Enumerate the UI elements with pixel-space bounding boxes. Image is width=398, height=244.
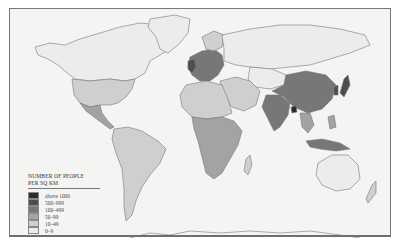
- legend-title-line2: PER SQ KM: [28, 180, 100, 187]
- legend-item: 100–499: [28, 206, 100, 213]
- legend-swatch: [28, 213, 39, 220]
- legend-label: above 1000: [45, 193, 70, 199]
- region-japan: [340, 75, 350, 97]
- region-sub-saharan-africa: [192, 117, 242, 179]
- legend-title-line1: NUMBER OF PEOPLE: [28, 173, 100, 180]
- region-korea: [334, 85, 338, 95]
- legend-swatch: [28, 192, 39, 199]
- legend-item: 500–999: [28, 199, 100, 206]
- region-southeast-asia: [300, 113, 314, 133]
- legend-swatch: [28, 227, 39, 234]
- region-russia: [222, 25, 370, 69]
- legend-swatch: [28, 199, 39, 206]
- region-india: [262, 95, 290, 131]
- legend-label: 10–49: [45, 221, 58, 227]
- legend-item: 10–49: [28, 220, 100, 227]
- region-south-america: [112, 127, 166, 221]
- region-madagascar: [244, 155, 252, 175]
- region-antarctica: [130, 231, 360, 238]
- region-philippines: [328, 115, 336, 129]
- region-bangladesh: [291, 106, 297, 113]
- region-indonesia: [306, 139, 350, 151]
- legend-swatch: [28, 206, 39, 213]
- legend-title: NUMBER OF PEOPLE PER SQ KM: [28, 173, 100, 189]
- region-mexico: [80, 103, 114, 129]
- region-new-zealand: [366, 181, 376, 203]
- legend-label: 100–499: [45, 207, 64, 213]
- legend-item: 0–9: [28, 227, 100, 234]
- legend-item: above 1000: [28, 192, 100, 199]
- legend-label: 500–999: [45, 200, 64, 206]
- region-usa: [72, 79, 135, 107]
- legend-item: 50–99: [28, 213, 100, 220]
- region-scandinavia: [202, 31, 224, 51]
- map-legend: NUMBER OF PEOPLE PER SQ KM above 1000 50…: [28, 173, 100, 234]
- map-frame: NUMBER OF PEOPLE PER SQ KM above 1000 50…: [9, 8, 391, 237]
- legend-label: 50–99: [45, 214, 58, 220]
- legend-label: 0–9: [45, 228, 53, 234]
- legend-swatch: [28, 220, 39, 227]
- region-australia: [316, 155, 360, 191]
